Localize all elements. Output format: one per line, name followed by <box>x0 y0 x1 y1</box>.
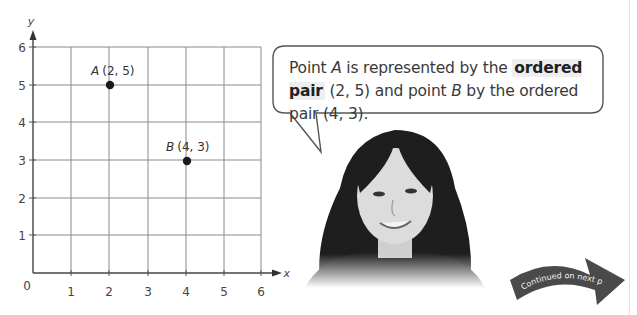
speech-bubble-text: Point A is represented by the ordered pa… <box>289 57 599 126</box>
continued-on-next-page-arrow[interactable]: Continued on next page <box>505 250 630 310</box>
girl-photo <box>300 118 490 288</box>
point-b-ref: B <box>451 82 461 100</box>
point-a-ref: A <box>331 59 341 77</box>
